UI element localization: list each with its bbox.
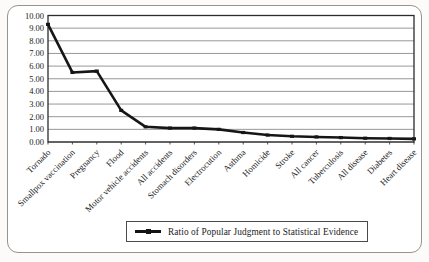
data-line [48, 24, 414, 138]
data-point-marker [290, 135, 294, 138]
data-point-marker [388, 137, 392, 140]
y-axis-tick-label: 1.00 [29, 124, 44, 134]
data-point-marker [95, 70, 99, 73]
data-point-marker [119, 109, 123, 112]
data-point-marker [266, 133, 270, 136]
legend-marker-dot [146, 229, 151, 234]
data-point-marker [192, 126, 196, 129]
y-axis-tick-label: 3.00 [29, 99, 44, 109]
data-point-marker [339, 136, 343, 139]
y-axis-tick-label: 8.00 [29, 36, 44, 46]
data-point-marker [70, 71, 74, 74]
y-axis-tick-label: 9.00 [29, 23, 44, 33]
data-point-marker [144, 125, 148, 128]
data-point-marker [314, 135, 318, 138]
figure: 0.001.002.003.004.005.006.007.008.009.00… [0, 0, 429, 262]
data-point-marker [46, 23, 50, 26]
y-axis-tick-label: 7.00 [29, 48, 44, 58]
x-axis-tick-label: Flood [104, 147, 126, 169]
data-point-marker [217, 128, 221, 131]
data-point-marker [168, 126, 172, 129]
y-axis-tick-label: 10.00 [25, 11, 44, 21]
y-axis-tick-label: 5.00 [29, 74, 44, 84]
legend: Ratio of Popular Judgment to Statistical… [126, 221, 368, 242]
y-axis-tick-label: 0.00 [29, 137, 44, 147]
y-axis-tick-label: 2.00 [29, 112, 44, 122]
y-axis-tick-label: 4.00 [29, 86, 44, 96]
legend-line-marker [135, 229, 161, 235]
data-point-marker [363, 137, 367, 140]
legend-label: Ratio of Popular Judgment to Statistical… [168, 227, 358, 237]
y-axis-tick-label: 6.00 [29, 61, 44, 71]
data-point-marker [412, 137, 416, 140]
data-point-marker [241, 131, 245, 134]
